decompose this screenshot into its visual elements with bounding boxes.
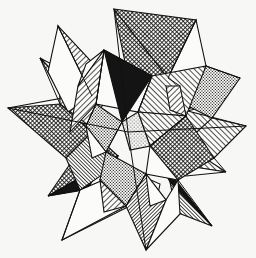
polyhedron-illustration (0, 0, 256, 258)
artwork-frame: Stellated Polyhedron Compound Pen-and-in… (0, 0, 256, 258)
